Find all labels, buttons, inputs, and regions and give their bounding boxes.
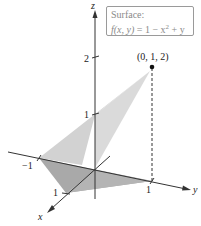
z-axis-arrow bbox=[93, 10, 98, 18]
legend-function-rhs: = 1 − x bbox=[137, 24, 166, 35]
y-axis-arrow bbox=[182, 186, 191, 191]
z-tick-label-1: 1 bbox=[84, 109, 89, 120]
legend-function-lhs: f(x, y) bbox=[111, 24, 134, 35]
y-tick-label-1: 1 bbox=[146, 184, 151, 195]
surface-upper-sheet-2 bbox=[95, 71, 150, 168]
point-label: (0, 1, 2) bbox=[137, 51, 169, 63]
legend-function: f(x, y) = 1 − x2 + y bbox=[111, 21, 189, 36]
z-tick-label-2: 2 bbox=[84, 53, 89, 64]
x-tick-label-1: 1 bbox=[53, 187, 58, 198]
y-tick-label-neg1: −1 bbox=[22, 160, 33, 171]
legend-title: Surface: bbox=[111, 9, 189, 21]
x-axis-label: x bbox=[37, 211, 43, 222]
legend-function-tail: + y bbox=[169, 24, 185, 35]
z-axis-label: z bbox=[90, 0, 95, 11]
point-marker bbox=[150, 65, 155, 70]
surface-legend: Surface: f(x, y) = 1 − x2 + y bbox=[106, 6, 194, 36]
y-axis-label: y bbox=[192, 184, 198, 195]
